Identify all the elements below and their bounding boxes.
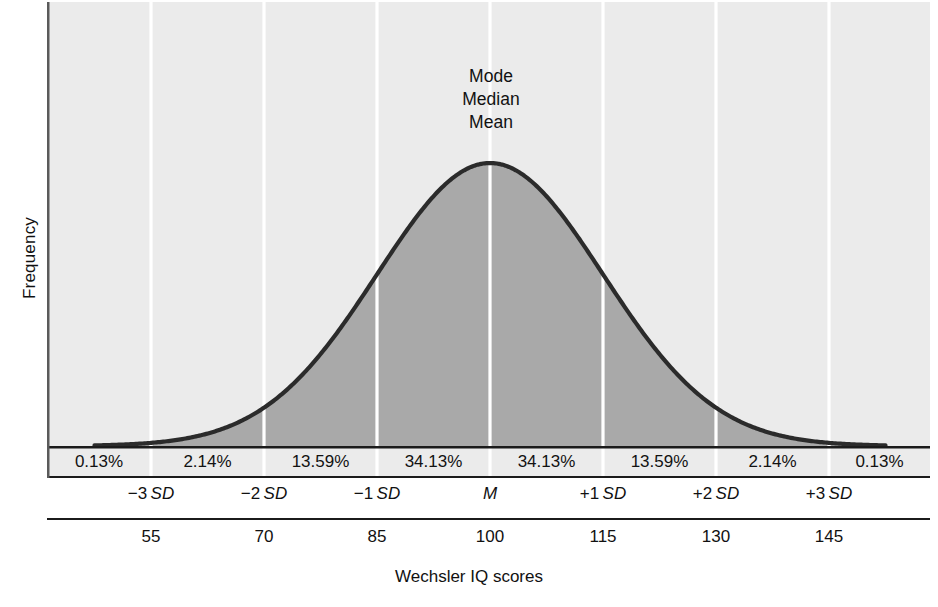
sd-divider-line <box>149 2 152 476</box>
sd-tick-label: +2 SD <box>661 484 771 504</box>
percentage-cell: 34.13% <box>490 446 603 478</box>
x-axis-title: Wechsler IQ scores <box>0 567 938 587</box>
distribution-svg <box>47 2 930 478</box>
iq-tick-label: 145 <box>774 527 884 547</box>
sd-divider-line <box>601 2 604 476</box>
sd-tick-label: −1 SD <box>322 484 432 504</box>
iq-score-row: 557085100115130145 <box>0 527 938 553</box>
sd-tick-label: +1 SD <box>548 484 658 504</box>
sd-tick-label: −2 SD <box>209 484 319 504</box>
iq-tick-label: 115 <box>548 527 658 547</box>
sd-tick-label: +3 SD <box>774 484 884 504</box>
percentage-band: 0.13%2.14%13.59%34.13%34.13%13.59%2.14%0… <box>47 446 930 478</box>
sd-divider-line <box>375 2 378 476</box>
y-axis-title: Frequency <box>20 198 40 318</box>
normal-distribution-figure: Frequency Mode Median Mean 0.13%2.14%13.… <box>0 0 938 607</box>
percentage-cell: 34.13% <box>377 446 490 478</box>
plot-area <box>47 2 930 478</box>
iq-tick-label: 55 <box>96 527 206 547</box>
iq-tick-label: 130 <box>661 527 771 547</box>
iq-tick-label: 85 <box>322 527 432 547</box>
sd-divider-line <box>488 2 491 476</box>
sd-tick-label: −3 SD <box>96 484 206 504</box>
iq-tick-label: 100 <box>435 527 545 547</box>
percentage-cell: 13.59% <box>603 446 716 478</box>
percentage-cell: 2.14% <box>151 446 264 478</box>
sd-label-row: −3 SD−2 SD−1 SDM+1 SD+2 SD+3 SD <box>0 484 938 510</box>
percentage-cell: 13.59% <box>264 446 377 478</box>
iq-tick-label: 70 <box>209 527 319 547</box>
percentage-cell: 0.13% <box>47 446 151 478</box>
percentage-cell: 2.14% <box>716 446 829 478</box>
sd-tick-label: M <box>435 484 545 504</box>
sd-divider-line <box>827 2 830 476</box>
y-axis-line <box>47 2 50 478</box>
percentage-cell: 0.13% <box>829 446 930 478</box>
x-axis-line <box>47 518 930 520</box>
